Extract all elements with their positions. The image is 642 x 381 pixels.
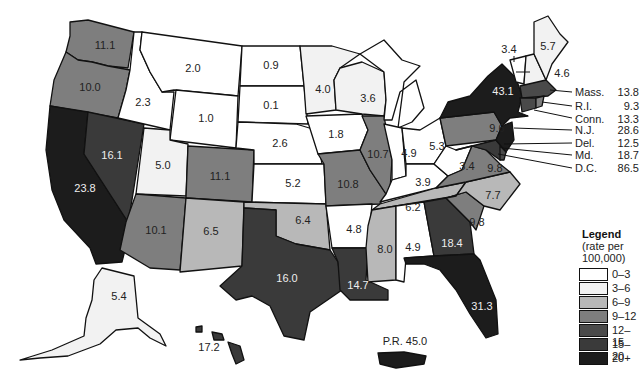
callout-ri: R.I.9.3 [575, 100, 639, 112]
callout-abbr: Mass. [575, 86, 604, 98]
callout-abbr: R.I. [575, 100, 592, 112]
callout-abbr: D.C. [575, 162, 597, 174]
legend-swatch [579, 268, 608, 281]
legend-bin-label: 9–12 [612, 310, 636, 322]
label-wi: 3.6 [360, 92, 375, 104]
callout-value: 9.3 [624, 100, 639, 112]
label-mt: 2.0 [185, 62, 200, 74]
label-pr: P.R. 45.0 [383, 335, 427, 347]
legend-swatch [579, 324, 608, 337]
label-id: 2.3 [135, 96, 150, 108]
label-ia: 1.8 [328, 128, 343, 140]
label-nc: 7.7 [485, 189, 500, 201]
legend-subtitle-1: (rate per [582, 240, 642, 252]
label-hi: 17.2 [198, 341, 219, 353]
label-oh: 5.3 [429, 140, 444, 152]
state-wisconsin [334, 62, 386, 116]
label-tn: 6.2 [405, 201, 420, 213]
label-nd: 0.9 [263, 59, 278, 71]
label-ms: 8.0 [377, 243, 392, 255]
label-ks: 5.2 [285, 177, 300, 189]
callout-abbr: Md. [575, 149, 593, 161]
label-pa: 9.6 [489, 122, 504, 134]
callout-nj: N.J.28.6 [575, 124, 639, 136]
legend-bin-label: 0–3 [612, 268, 630, 280]
callout-ma: Mass.13.8 [575, 86, 639, 98]
label-tx: 16.0 [276, 272, 297, 284]
label-sd: 0.1 [263, 99, 278, 111]
legend-bin: 15–20 [582, 338, 642, 352]
territory-puerto-rico [378, 352, 426, 368]
label-ky: 3.9 [415, 176, 430, 188]
legend-bin: 20+ [582, 352, 642, 366]
label-ok: 6.4 [295, 214, 310, 226]
label-il: 10.7 [367, 148, 388, 160]
state-florida [404, 254, 498, 338]
label-al: 4.9 [405, 241, 420, 253]
legend-title: Legend [582, 228, 642, 240]
label-or: 10.0 [79, 81, 100, 93]
us-choropleth-map [0, 0, 642, 381]
callout-de: Del.12.5 [575, 137, 639, 149]
label-ca: 23.8 [74, 182, 95, 194]
legend-swatch [579, 282, 608, 295]
label-va: 9.8 [487, 162, 502, 174]
label-nv: 16.1 [101, 149, 122, 161]
label-wy: 1.0 [198, 112, 213, 124]
legend-bin-label: 6–9 [612, 296, 630, 308]
label-fl: 31.3 [471, 300, 492, 312]
legend-bin-label: 20+ [612, 352, 631, 364]
label-ut: 5.0 [155, 159, 170, 171]
label-ny: 43.1 [492, 85, 513, 97]
callout-value: 86.5 [618, 162, 639, 174]
label-nh: 4.6 [554, 67, 569, 79]
callout-value: 18.7 [618, 149, 639, 161]
callout-abbr: Del. [575, 137, 595, 149]
callout-md: Md.18.7 [575, 149, 639, 161]
label-mn: 4.0 [315, 83, 330, 95]
label-in: 4.9 [401, 147, 416, 159]
label-wa: 11.1 [95, 39, 116, 51]
legend-bin: 6–9 [582, 296, 642, 310]
label-ar: 4.8 [346, 223, 361, 235]
label-az: 10.1 [145, 224, 166, 236]
label-la: 14.7 [347, 279, 368, 291]
label-sc: 9.8 [469, 216, 484, 228]
callout-dc: D.C.86.5 [575, 162, 639, 174]
label-ga: 18.4 [441, 237, 462, 249]
label-ak: 5.4 [111, 290, 126, 302]
legend-swatch [579, 352, 608, 365]
legend-swatch [579, 296, 608, 309]
label-vt: 3.4 [501, 43, 516, 55]
label-wv: 3.4 [459, 160, 474, 172]
label-nm: 6.5 [203, 225, 218, 237]
label-me: 5.7 [540, 40, 555, 52]
legend-swatch [579, 338, 608, 351]
legend-bin: 12–15 [582, 324, 642, 338]
label-co: 11.1 [210, 170, 231, 182]
legend: Legend (rate per 100,000) 0–3 3–6 6–9 9–… [582, 228, 642, 366]
callout-value: 12.5 [618, 137, 639, 149]
callout-value: 13.8 [618, 86, 639, 98]
legend-swatch [579, 310, 608, 323]
label-mo: 10.8 [337, 178, 358, 190]
legend-bin: 3–6 [582, 282, 642, 296]
state-alaska [20, 268, 166, 360]
legend-subtitle-2: 100,000) [582, 252, 642, 264]
legend-bin: 9–12 [582, 310, 642, 324]
callout-value: 28.6 [618, 124, 639, 136]
legend-bin: 0–3 [582, 268, 642, 282]
label-ne: 2.6 [272, 137, 287, 149]
callout-abbr: N.J. [575, 124, 595, 136]
legend-bin-label: 3–6 [612, 282, 630, 294]
state-connecticut [520, 98, 536, 112]
